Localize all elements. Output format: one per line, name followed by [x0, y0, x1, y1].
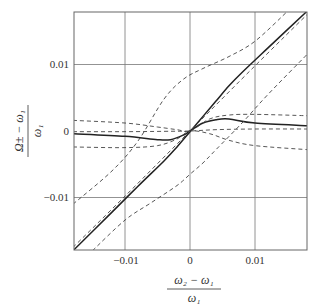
x-tick-label: 0 [187, 254, 193, 266]
x-tick-label: −0.01 [113, 254, 138, 266]
x-label-numerator: ω₂ − ω₁ [174, 273, 213, 287]
y-label-denominator: ω₁ [30, 125, 44, 138]
y-tick-label: 0 [64, 125, 70, 137]
y-tick-label: 0.01 [50, 58, 69, 70]
y-label-numerator: Ω± − ω₁ [12, 110, 26, 152]
x-tick-label: 0.01 [245, 254, 264, 266]
chart: 0.01 0 −0.01 −0.01 0 0.01 ω₂ − ω₁ ω₁ Ω± … [0, 0, 317, 307]
x-axis-label: ω₂ − ω₁ ω₁ [167, 273, 221, 305]
x-label-denominator: ω₁ [188, 291, 201, 305]
y-tick-label: −0.01 [44, 191, 69, 203]
y-axis-label: Ω± − ω₁ ω₁ [12, 105, 44, 157]
